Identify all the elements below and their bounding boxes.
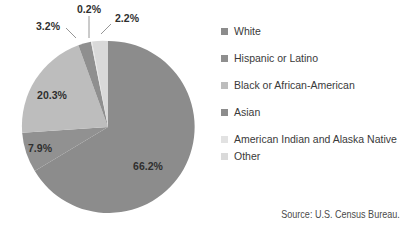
leader-line-other xyxy=(101,24,111,34)
pie-chart: 66.2% 7.9% 20.3% 3.2% 0.2% 2.2% xyxy=(0,0,220,228)
legend-label: White xyxy=(234,25,261,38)
legend-swatch-icon xyxy=(221,55,228,62)
legend-swatch-icon xyxy=(221,153,228,160)
pie-value-white: 66.2% xyxy=(133,160,163,172)
legend-swatch-icon xyxy=(221,109,228,116)
leader-line-asian xyxy=(66,28,76,38)
legend-label: American Indian and Alaska Native xyxy=(234,133,397,146)
chart-canvas: 66.2% 7.9% 20.3% 3.2% 0.2% 2.2% White Hi… xyxy=(0,0,406,228)
pie-svg: 66.2% 7.9% 20.3% 3.2% 0.2% 2.2% xyxy=(0,0,220,228)
legend-item-other[interactable]: Other xyxy=(221,150,406,163)
legend-label: Black or African-American xyxy=(234,79,355,92)
legend-label: Asian xyxy=(234,106,260,119)
legend-label: Hispanic or Latino xyxy=(234,52,318,65)
chart-legend: White Hispanic or Latino Black or Africa… xyxy=(221,25,406,177)
pie-value-black: 20.3% xyxy=(37,89,67,101)
legend-item-black-or-african-american[interactable]: Black or African-American xyxy=(221,79,406,92)
legend-item-white[interactable]: White xyxy=(221,25,406,38)
legend-swatch-icon xyxy=(221,136,228,143)
pie-value-asian: 3.2% xyxy=(36,20,61,32)
pie-value-american-indian: 0.2% xyxy=(77,3,102,15)
pie-value-hispanic: 7.9% xyxy=(28,142,53,154)
legend-item-american-indian-and-alaska-native[interactable]: American Indian and Alaska Native xyxy=(221,133,406,146)
legend-item-hispanic-or-latino[interactable]: Hispanic or Latino xyxy=(221,52,406,65)
legend-swatch-icon xyxy=(221,28,228,35)
legend-swatch-icon xyxy=(221,82,228,89)
pie-value-other: 2.2% xyxy=(115,12,140,24)
legend-item-asian[interactable]: Asian xyxy=(221,106,406,119)
legend-label: Other xyxy=(234,150,260,163)
source-note: Source: U.S. Census Bureau. xyxy=(282,208,400,220)
